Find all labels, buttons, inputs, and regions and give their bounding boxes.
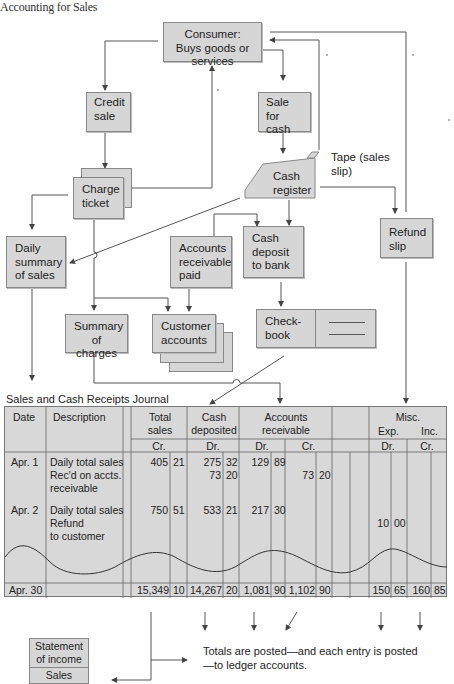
totals-misc-cr-dollars: 160	[407, 584, 430, 597]
totals-misc-dr-cents: 65	[394, 584, 406, 597]
cash-dollars: 275	[187, 456, 221, 469]
header-accounts-receivable: Accounts receivable	[255, 411, 317, 437]
row-description-line: Daily total sales	[50, 504, 124, 517]
totals-total-sales-cents: 10	[173, 584, 185, 597]
header-description: Description	[53, 411, 106, 424]
totals-ar-cr-dollars: 1,102	[285, 584, 315, 597]
row-description-line: Refund	[50, 517, 84, 530]
journal-title: Sales and Cash Receipts Journal	[6, 393, 169, 405]
credit-sale-box: Credit sale	[86, 92, 131, 132]
misc-exp-dr-dollars: 10	[369, 517, 389, 530]
tape-label: Tape (sales slip)	[331, 151, 401, 178]
sale-for-cash-box: Sale for cash	[258, 92, 311, 132]
cash-cents: 32	[226, 456, 238, 469]
daily-summary-box: Daily summary of sales	[6, 236, 66, 288]
totals-cash-cents: 20	[226, 584, 238, 597]
header-misc-inc: Inc.	[421, 425, 438, 438]
summary-of-charges-box: Summary of charges	[65, 314, 128, 353]
header-misc-dr: Dr.	[369, 440, 407, 453]
header-misc: Misc.	[369, 411, 447, 424]
row-description-line: Daily total sales	[50, 456, 124, 469]
row-date: Apr. 2	[11, 504, 38, 517]
cash-dollars: 73	[187, 469, 221, 482]
accounts-receivable-paid-box: Accounts receivable paid	[170, 236, 232, 288]
cash-cents: 21	[226, 504, 238, 517]
ar-dr-dollars: 217	[239, 504, 269, 517]
charge-ticket-box: Charge ticket	[73, 177, 124, 219]
totals-cash-dollars: 14,267	[187, 584, 222, 597]
header-total-sales-cr: Cr.	[131, 440, 187, 453]
statement-sales-line: Sales	[30, 667, 88, 683]
totals-ar-cr-cents: 90	[319, 584, 331, 597]
misc-exp-dr-cents: 00	[394, 517, 406, 530]
row-description-line: receivable	[50, 482, 98, 495]
header-misc-cr: Cr.	[407, 440, 447, 453]
total-sales-cents: 21	[173, 456, 185, 469]
total-sales-cents: 51	[173, 504, 185, 517]
header-ar-cr: Cr.	[285, 440, 332, 453]
ar-cr-cents: 20	[319, 469, 331, 482]
cash-cents: 20	[226, 469, 238, 482]
cash-dollars: 533	[187, 504, 221, 517]
totals-ar-dr-dollars: 1,081	[239, 584, 270, 597]
totals-total-sales-dollars: 15,349	[131, 584, 169, 597]
total-sales-dollars: 405	[131, 456, 168, 469]
totals-misc-cr-cents: 85	[434, 584, 446, 597]
customer-accounts-box: Customer accounts	[152, 314, 216, 353]
header-cash-deposited: Cash deposited	[190, 411, 238, 437]
cash-register-label: Cash register	[273, 170, 315, 197]
ar-dr-cents: 89	[274, 456, 286, 469]
sales-cash-receipts-journal: Date Description Total sales Cash deposi…	[4, 406, 447, 597]
row-date: Apr. 1	[11, 456, 38, 469]
statement-of-income-box: Statement of income Sales	[29, 638, 89, 684]
row-description-line: Rec'd on accts.	[50, 469, 121, 482]
checkbook-box: Check-book	[256, 309, 376, 348]
statement-title: Statement of income	[30, 639, 88, 667]
total-sales-dollars: 750	[131, 504, 168, 517]
totals-ar-dr-cents: 90	[274, 584, 286, 597]
totals-misc-dr-dollars: 150	[369, 584, 390, 597]
cash-deposit-box: Cash deposit to bank	[243, 226, 304, 278]
ar-dr-dollars: 129	[239, 456, 269, 469]
consumer-box: Consumer: Buys goods or services	[163, 22, 262, 62]
ar-cr-dollars: 73	[285, 469, 314, 482]
header-total-sales: Total sales	[140, 411, 180, 437]
refund-slip-box: Refund slip	[380, 218, 433, 258]
header-date: Date	[13, 411, 35, 424]
posting-note: Totals are posted—and each entry is post…	[203, 644, 423, 672]
row-description-line: to customer	[50, 530, 105, 543]
header-misc-exp: Exp.	[378, 425, 399, 438]
header-ar-dr: Dr.	[239, 440, 285, 453]
totals-date: Apr. 30	[9, 584, 42, 597]
header-cash-dr: Dr.	[187, 440, 239, 453]
ar-dr-cents: 30	[274, 504, 286, 517]
